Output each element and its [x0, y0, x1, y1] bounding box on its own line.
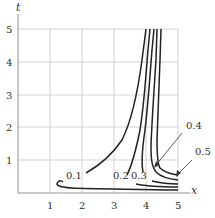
curve-0.3-lower — [152, 181, 178, 184]
chart: t x 1 2 3 4 5 1 2 3 4 5 0.1 0.2 0.3 0.4 … — [0, 0, 215, 218]
annotation-arrows — [154, 133, 192, 177]
svg-text:1: 1 — [47, 200, 53, 211]
label-0.5: 0.5 — [195, 146, 211, 157]
svg-text:4: 4 — [143, 200, 149, 211]
svg-text:3: 3 — [6, 90, 12, 101]
arrow-0.5 — [178, 160, 192, 174]
x-axis-label: x — [191, 184, 198, 197]
label-0.2: 0.2 — [113, 170, 129, 181]
curve-0.2-upper — [127, 29, 150, 175]
svg-text:5: 5 — [175, 200, 181, 211]
curve-0.4 — [151, 29, 178, 180]
curve-0.5 — [157, 29, 178, 175]
svg-text:1: 1 — [6, 155, 12, 166]
label-0.3: 0.3 — [131, 170, 147, 181]
svg-text:4: 4 — [6, 57, 12, 68]
label-0.4: 0.4 — [186, 120, 202, 131]
y-tick-labels: 1 2 3 4 5 — [6, 24, 12, 166]
svg-text:2: 2 — [6, 122, 12, 133]
x-tick-labels: 1 2 3 4 5 — [47, 200, 181, 211]
chart-svg: t x 1 2 3 4 5 1 2 3 4 5 0.1 0.2 0.3 0.4 … — [0, 0, 215, 218]
arrowhead-0.5 — [176, 170, 181, 177]
svg-text:2: 2 — [79, 200, 85, 211]
curves — [57, 29, 178, 190]
y-axis-label: t — [16, 1, 21, 14]
svg-text:3: 3 — [111, 200, 117, 211]
curve-0.1-upper — [86, 29, 146, 173]
svg-text:5: 5 — [6, 24, 12, 35]
label-0.1: 0.1 — [66, 170, 82, 181]
